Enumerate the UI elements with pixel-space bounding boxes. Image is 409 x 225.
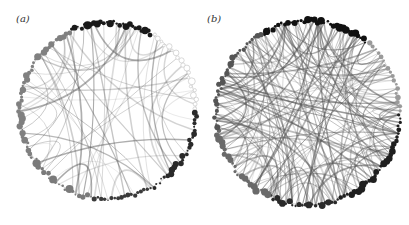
node — [271, 198, 275, 202]
node — [297, 20, 300, 23]
node — [212, 115, 216, 119]
node — [333, 200, 337, 204]
node — [299, 19, 302, 22]
node — [226, 68, 229, 71]
node — [238, 49, 241, 52]
node — [220, 76, 225, 81]
node — [214, 124, 220, 130]
panel-b: (b) — [0, 0, 409, 225]
node — [397, 113, 400, 116]
node — [399, 109, 402, 112]
node — [376, 48, 378, 50]
node — [258, 32, 263, 37]
node — [250, 38, 253, 41]
node — [216, 89, 220, 93]
node — [291, 204, 293, 206]
node — [314, 204, 318, 208]
node — [379, 169, 381, 171]
node — [217, 93, 220, 96]
node — [213, 98, 218, 103]
node — [397, 124, 400, 127]
node — [377, 51, 381, 55]
node — [318, 203, 320, 205]
node — [398, 104, 402, 108]
node — [399, 117, 401, 119]
node — [389, 70, 392, 73]
node — [379, 55, 384, 60]
node — [216, 120, 218, 122]
node — [294, 205, 296, 207]
node — [285, 20, 291, 26]
node — [248, 40, 251, 43]
node — [395, 95, 401, 101]
node — [349, 192, 355, 198]
node — [224, 71, 229, 76]
node — [245, 46, 247, 48]
node — [391, 74, 395, 78]
node — [276, 23, 280, 27]
node — [395, 83, 398, 86]
node — [371, 45, 375, 49]
node — [327, 20, 330, 23]
node — [236, 174, 239, 177]
node — [395, 135, 399, 139]
node — [287, 198, 293, 204]
node — [338, 195, 343, 200]
node — [397, 132, 400, 135]
node — [336, 198, 338, 200]
node — [268, 27, 270, 29]
node — [323, 22, 325, 24]
network-diagram-b — [0, 0, 409, 225]
node — [319, 202, 326, 209]
node — [367, 40, 372, 45]
node — [392, 78, 396, 82]
node — [385, 66, 390, 71]
node — [234, 165, 237, 168]
node — [215, 113, 217, 115]
node — [246, 42, 249, 45]
node — [222, 152, 227, 157]
node — [215, 109, 219, 113]
node — [239, 173, 245, 179]
node — [297, 202, 302, 207]
node — [395, 92, 398, 95]
node — [379, 165, 382, 168]
node — [395, 100, 399, 104]
node — [274, 195, 280, 201]
node — [383, 64, 386, 67]
node — [270, 27, 275, 32]
node — [260, 189, 263, 192]
node — [236, 52, 239, 55]
node — [395, 86, 400, 91]
node — [217, 107, 219, 109]
node — [396, 127, 401, 132]
node — [215, 123, 217, 125]
node — [242, 48, 246, 52]
node — [346, 193, 349, 196]
node — [364, 41, 366, 43]
node — [220, 87, 223, 90]
node — [280, 22, 283, 25]
node — [383, 59, 385, 61]
node — [399, 121, 402, 124]
node — [233, 170, 236, 173]
node — [214, 133, 219, 138]
node — [215, 96, 218, 99]
node — [361, 36, 367, 42]
node — [373, 169, 379, 175]
node — [304, 203, 308, 207]
